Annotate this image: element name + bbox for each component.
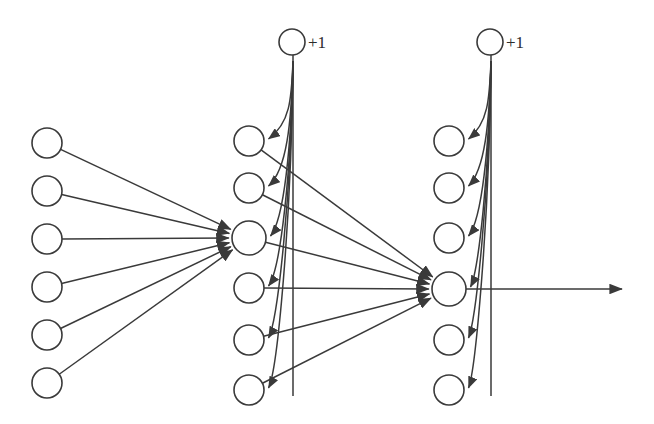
bias-node-2[interactable]	[477, 29, 503, 55]
bias2-branch-6	[469, 61, 492, 388]
bias-node-group: +1+1	[279, 29, 524, 55]
edge-group-bias1-to-hidden1	[269, 55, 294, 396]
edge-input-5-to-hidden1-3	[61, 247, 231, 329]
node-hidden1-6[interactable]	[234, 375, 264, 405]
network-canvas: +1+1	[0, 0, 654, 424]
edge-input-2-to-hidden1-3	[62, 194, 230, 233]
bias-label-1: +1	[308, 33, 326, 52]
node-hidden2-5[interactable]	[434, 325, 464, 355]
node-input-4[interactable]	[32, 272, 62, 302]
node-hidden2-3[interactable]	[434, 223, 464, 253]
node-hidden1-5[interactable]	[234, 325, 264, 355]
node-hidden2-1[interactable]	[434, 126, 464, 156]
node-input-1[interactable]	[32, 128, 62, 158]
node-input-3[interactable]	[32, 224, 62, 254]
node-hidden2-4[interactable]	[432, 272, 466, 306]
edge-input-6-to-hidden1-3	[59, 250, 232, 374]
bias-node-1[interactable]	[279, 29, 305, 55]
edge-input-4-to-hidden1-3	[62, 243, 230, 284]
node-hidden2-2[interactable]	[434, 173, 464, 203]
node-input-2[interactable]	[32, 176, 62, 206]
node-hidden1-4[interactable]	[234, 273, 264, 303]
edge-group-input-to-hidden1	[59, 149, 232, 374]
edge-input-3-to-hidden1-3	[62, 238, 229, 239]
bias1-branch-6	[269, 61, 294, 388]
edge-input-1-to-hidden1-3	[61, 149, 231, 229]
node-hidden2-6[interactable]	[434, 375, 464, 405]
node-input-6[interactable]	[32, 368, 62, 398]
edge-hidden1-5-to-hidden2-4	[264, 294, 430, 336]
node-hidden1-1[interactable]	[234, 126, 264, 156]
node-hidden1-3[interactable]	[232, 221, 266, 255]
edge-hidden1-3-to-hidden2-4	[265, 242, 429, 284]
node-input-5[interactable]	[32, 320, 62, 350]
node-hidden1-2[interactable]	[234, 173, 264, 203]
edge-hidden1-6-to-hidden2-4	[262, 298, 431, 383]
edge-hidden1-4-to-hidden2-4	[264, 288, 429, 289]
bias-label-2: +1	[506, 33, 524, 52]
edge-group-bias2-to-hidden2	[469, 55, 492, 396]
neural-network-diagram: +1+1	[0, 0, 654, 424]
